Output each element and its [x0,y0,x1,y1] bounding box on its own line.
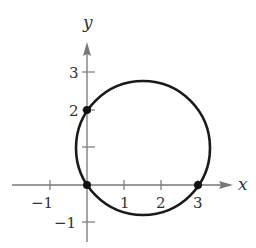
x-tick-label-3: 3 [193,194,203,212]
x-axis-arrow-icon [219,181,233,189]
y-tick-label-2: 2 [69,102,79,120]
circle-graph: −1 1 2 3 3 2 −1 x y [0,0,256,248]
y-tick-label-neg1: −1 [54,214,76,232]
x-tick-label-neg1: −1 [31,194,53,212]
point-3-0 [194,181,202,189]
x-axis-label: x [238,174,248,194]
y-tick-label-3: 3 [69,64,79,82]
x-tick-label-1: 1 [120,194,130,212]
y-ticks [82,72,95,222]
y-axis-arrow-icon [83,42,91,56]
point-0-0 [83,181,91,189]
point-0-2 [83,106,91,114]
x-tick-label-2: 2 [156,194,166,212]
y-axis-label: y [82,12,93,32]
circle-curve [76,81,210,215]
